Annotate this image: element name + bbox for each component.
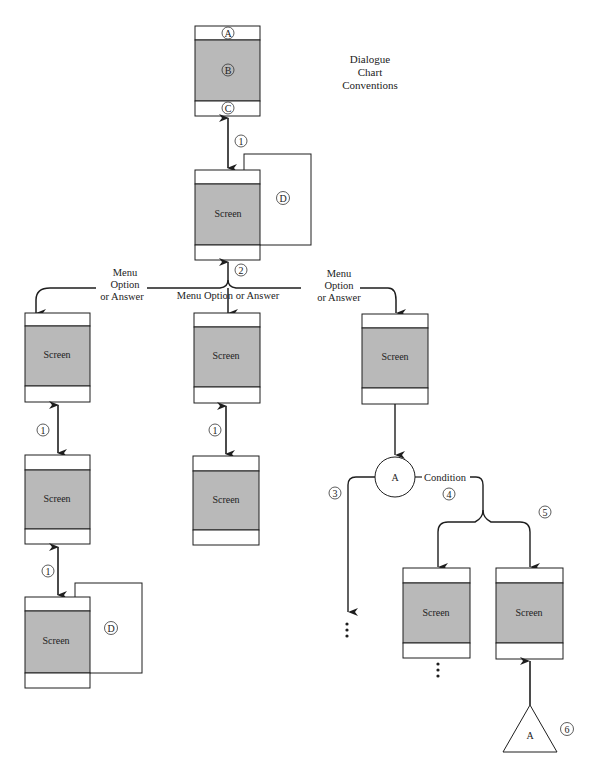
svg-text:Menu: Menu: [113, 267, 138, 278]
svg-text:Screen: Screen: [515, 607, 542, 618]
diagram-title: Dialogue Chart Conventions: [342, 53, 398, 91]
svg-text:C: C: [225, 103, 232, 114]
step-marker-2: 2: [235, 264, 247, 276]
svg-text:Dialogue: Dialogue: [350, 53, 390, 65]
condition-label: Condition: [424, 472, 467, 483]
svg-text:6: 6: [565, 724, 570, 735]
overlay-marker-d: D: [105, 622, 118, 635]
screen-condition-2: Screen: [496, 568, 563, 659]
screen-condition-1: Screen: [403, 568, 470, 658]
svg-text:Screen: Screen: [212, 350, 239, 361]
svg-text:1: 1: [41, 425, 46, 436]
svg-text:2: 2: [239, 265, 244, 276]
step-marker-6: 6: [561, 723, 574, 736]
step-marker-3: 3: [329, 487, 341, 499]
screen-right-1: Screen: [362, 314, 428, 404]
svg-text:Option: Option: [324, 280, 354, 291]
svg-text:or Answer: or Answer: [317, 292, 361, 303]
screen-center-2: Screen: [193, 456, 259, 545]
svg-text:Screen: Screen: [42, 635, 69, 646]
legend-screen: A B C: [195, 26, 260, 116]
svg-text:Menu Option or Answer: Menu Option or Answer: [177, 290, 280, 301]
step-marker-4: 4: [443, 488, 455, 500]
screen-center-1: Screen: [194, 313, 260, 403]
screen-left-2: Screen: [25, 455, 90, 544]
dialogue-chart: A B C Dialogue Chart Conventions 1 Scree…: [0, 0, 591, 772]
step-marker-1: 1: [209, 424, 221, 436]
marker-c: C: [222, 102, 234, 114]
svg-text:3: 3: [333, 488, 338, 499]
svg-text:1: 1: [46, 566, 51, 577]
branch-label-left: Menu Option or Answer: [100, 267, 144, 302]
svg-text:Screen: Screen: [422, 607, 449, 618]
ellipsis-vertical: [345, 622, 348, 637]
connector-circle: A: [375, 457, 415, 497]
svg-text:B: B: [225, 65, 232, 76]
svg-text:Screen: Screen: [381, 351, 408, 362]
svg-text:D: D: [279, 193, 286, 204]
svg-text:D: D: [107, 623, 114, 634]
svg-text:Screen: Screen: [214, 208, 241, 219]
step-marker-1: 1: [235, 135, 247, 147]
marker-a: A: [222, 27, 234, 39]
svg-text:1: 1: [239, 136, 244, 147]
svg-text:Screen: Screen: [43, 493, 70, 504]
connector-triangle: A: [503, 705, 557, 752]
branch-label-right: Menu Option or Answer: [317, 268, 361, 303]
step-marker-1: 1: [42, 565, 54, 577]
svg-text:A: A: [526, 730, 534, 741]
continuation-arrow: [348, 477, 375, 612]
branch-label-center: Menu Option or Answer: [177, 290, 280, 301]
svg-text:4: 4: [447, 489, 452, 500]
svg-text:Screen: Screen: [43, 349, 70, 360]
screen-left-1: Screen: [25, 313, 90, 402]
svg-text:Chart: Chart: [358, 66, 382, 78]
svg-text:A: A: [224, 28, 232, 39]
svg-text:Menu: Menu: [327, 268, 352, 279]
ellipsis-vertical: [436, 662, 439, 677]
svg-text:or Answer: or Answer: [100, 291, 144, 302]
svg-text:Option: Option: [110, 279, 140, 290]
svg-text:5: 5: [543, 507, 548, 518]
svg-text:A: A: [391, 472, 399, 483]
step-marker-5: 5: [539, 506, 551, 518]
svg-text:Screen: Screen: [212, 494, 239, 505]
top-screen-with-overlay: Screen D: [195, 154, 311, 260]
svg-text:Conventions: Conventions: [342, 79, 398, 91]
screen-left-3-with-overlay: Screen D: [25, 583, 142, 688]
svg-text:1: 1: [213, 425, 218, 436]
overlay-marker-d: D: [277, 192, 290, 205]
step-marker-1: 1: [37, 424, 49, 436]
